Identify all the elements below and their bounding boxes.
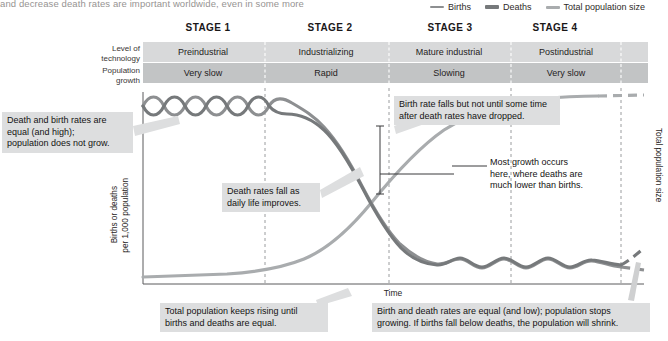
table-dividers: [143, 40, 653, 86]
row-label-growth-line2: growth: [96, 76, 140, 86]
callout-birth-fall-line2: after death rates have dropped.: [399, 111, 555, 123]
legend-label-births: Births: [448, 2, 471, 12]
callout-stage4-line1: Birth and death rates are equal (and low…: [377, 306, 645, 318]
callout-stage4-line2: growing. If births fall below deaths, th…: [377, 318, 645, 330]
callout-most-growth-line3: much lower than births.: [490, 180, 620, 192]
series-births-projection: [621, 267, 644, 270]
callout-total-pop-line2: births and deaths are equal.: [165, 318, 323, 330]
callout-stage1-line2: equal (and high);: [7, 127, 128, 139]
callout-birth-fall-line1: Birth rate falls but not until some time: [399, 99, 555, 111]
row-label-growth-line1: Population: [96, 66, 140, 76]
legend-item-total-population: Total population size: [546, 2, 646, 12]
line-swatch-icon: [546, 6, 560, 9]
callout-death-rates-fall: Death rates fall as daily life improves.: [222, 183, 320, 212]
callout-stage1-line1: Death and birth rates are: [7, 115, 128, 127]
callout-most-growth-line2: here, where deaths are: [490, 169, 620, 181]
stage-title-1: STAGE 1: [148, 22, 268, 33]
y-axis-label-right: Total population size: [654, 128, 663, 202]
row-label-technology: Level of technology: [96, 44, 140, 63]
callout-death-fall-line2: daily life improves.: [227, 198, 315, 210]
page-caption-text: and decrease death rates are important w…: [0, 0, 430, 9]
callout-death-fall-line1: Death rates fall as: [227, 186, 315, 198]
y-axis-label-left-line2: per 1,000 population: [121, 178, 130, 253]
y-axis-label-left-line1: Births or deaths: [110, 186, 119, 243]
chart-legend: Births Deaths Total population size: [430, 0, 645, 14]
row-label-technology-line2: technology: [96, 54, 140, 64]
series-deaths-projection: [621, 248, 644, 265]
row-label-technology-line1: Level of: [96, 44, 140, 54]
callout-stage4: Birth and death rates are equal (and low…: [372, 303, 650, 332]
row-label-growth: Population growth: [96, 66, 140, 85]
stage-title-4: STAGE 4: [495, 22, 615, 33]
line-swatch-icon: [430, 6, 444, 9]
callout-birth-rate-falls: Birth rate falls but not until some time…: [394, 96, 560, 125]
stage-title-2: STAGE 2: [270, 22, 390, 33]
callout-most-growth-line1: Most growth occurs: [490, 157, 620, 169]
callout-total-population: Total population keeps rising until birt…: [160, 303, 328, 332]
stage-title-3: STAGE 3: [390, 22, 510, 33]
y-axis-label-left: Births or deaths per 1,000 population: [110, 140, 130, 290]
legend-item-births: Births: [430, 2, 471, 12]
legend-label-deaths: Deaths: [503, 2, 532, 12]
callout-most-growth: Most growth occurs here, where deaths ar…: [490, 157, 620, 192]
callout-total-pop-line1: Total population keeps rising until: [165, 306, 323, 318]
series-total-population-projection: [598, 95, 644, 96]
x-axis-label: Time: [370, 288, 416, 298]
legend-label-total-population: Total population size: [564, 2, 646, 12]
line-swatch-icon: [485, 5, 499, 8]
legend-item-deaths: Deaths: [485, 2, 532, 12]
